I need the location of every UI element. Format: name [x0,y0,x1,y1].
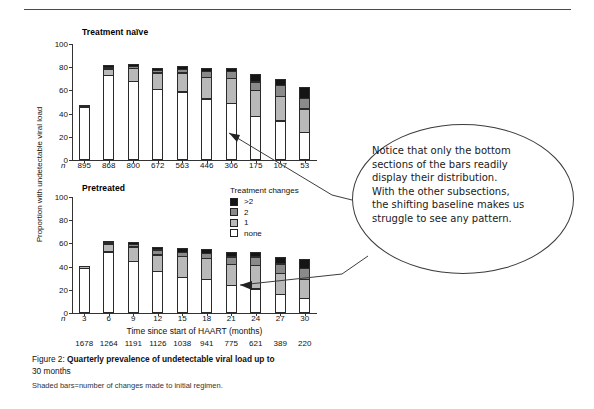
caption-title-line2: 30 months [32,366,372,378]
figure-page: Proportion with undetectable viral load … [0,0,594,409]
annotation-line-1: Notice that only the bottom [372,144,562,158]
annotation-line-6: struggle to see any pattern. [372,212,562,226]
annotation-text: Notice that only the bottom sections of … [372,144,562,226]
annotation-line-4: With the other subsections, [372,185,562,199]
annotation-line-5: the shifting baseline makes us [372,198,562,212]
caption-note: Shaded bars=number of changes made to in… [32,381,372,391]
caption-title-line1: Quarterly prevalence of undetectable vir… [67,354,274,364]
figure-container: Proportion with undetectable viral load … [0,0,594,409]
annotation-line-3: display their distribution. [372,171,562,185]
annotation-line-2: sections of the bars readily [372,158,562,172]
figure-caption: Figure 2: Quarterly prevalence of undete… [32,354,372,391]
caption-title-row: Figure 2: Quarterly prevalence of undete… [32,354,372,366]
caption-figure-number: Figure 2: [32,354,65,364]
